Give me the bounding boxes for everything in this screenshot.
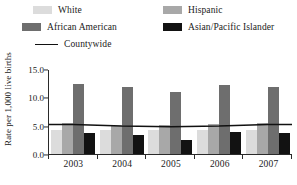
bar-asian-pacific-islander-2005 xyxy=(181,140,192,154)
bar-group-2004 xyxy=(98,70,147,154)
bar-group-2007 xyxy=(243,70,292,154)
y-axis-tick-labels: 15.0 10.0 5.0 0.0 xyxy=(14,56,44,185)
bar-asian-pacific-islander-2006 xyxy=(230,132,241,154)
bar-hispanic-2003 xyxy=(62,123,73,154)
legend-label-hispanic: Hispanic xyxy=(188,5,223,15)
bar-group-2003 xyxy=(49,70,98,154)
y-axis-title: Rate per 1,000 live births xyxy=(3,47,13,151)
bar-white-2007 xyxy=(246,130,257,154)
x-tick-label-2006: 2006 xyxy=(195,159,244,169)
bar-hispanic-2007 xyxy=(257,123,268,154)
bar-white-2004 xyxy=(100,130,111,154)
bar-african-american-2007 xyxy=(268,87,279,154)
legend-label-countywide: Countywide xyxy=(64,39,111,49)
bar-hispanic-2005 xyxy=(159,125,170,154)
bar-white-2003 xyxy=(51,130,62,154)
x-tick-label-2005: 2005 xyxy=(147,159,196,169)
legend-item-countywide: Countywide xyxy=(35,39,111,49)
x-tick-label-2004: 2004 xyxy=(98,159,147,169)
y-tick-label-15: 15.0 xyxy=(18,65,44,75)
y-tick-label-10: 10.0 xyxy=(18,93,44,103)
chart-axes xyxy=(48,70,292,155)
legend-item-hispanic: Hispanic xyxy=(163,5,223,15)
bar-african-american-2003 xyxy=(73,84,84,154)
legend-label-asian-pacific-islander: Asian/Pacific Islander xyxy=(188,22,274,32)
bar-white-2005 xyxy=(148,130,159,154)
bar-asian-pacific-islander-2007 xyxy=(279,133,290,154)
bar-african-american-2005 xyxy=(170,92,181,154)
chart-legend: White Hispanic African American Asian/Pa… xyxy=(0,0,297,58)
y-tick-label-5: 5.0 xyxy=(18,122,44,132)
legend-label-african-american: African American xyxy=(47,22,117,32)
y-tick-mark-5 xyxy=(44,126,48,127)
bar-group-2006 xyxy=(195,70,244,154)
bar-asian-pacific-islander-2003 xyxy=(84,133,95,154)
legend-swatch-asian-pacific-islander-icon xyxy=(163,23,182,31)
legend-item-african-american: African American xyxy=(22,22,117,32)
legend-swatch-hispanic-icon xyxy=(163,6,182,14)
bar-white-2006 xyxy=(197,130,208,154)
y-tick-mark-10 xyxy=(44,98,48,99)
x-axis-line xyxy=(48,154,292,155)
plot-area: Rate per 1,000 live births 15.0 10.0 5.0… xyxy=(0,56,297,185)
legend-swatch-african-american-icon xyxy=(22,23,41,31)
legend-item-white: White xyxy=(33,5,82,15)
bar-group-2005 xyxy=(146,70,195,154)
bar-asian-pacific-islander-2004 xyxy=(133,135,144,154)
legend-label-white: White xyxy=(58,5,82,15)
x-tick-label-2003: 2003 xyxy=(49,159,98,169)
bar-african-american-2004 xyxy=(122,87,133,154)
x-tick-label-2007: 2007 xyxy=(244,159,293,169)
bar-hispanic-2006 xyxy=(208,124,219,154)
legend-swatch-countywide-line-icon xyxy=(35,40,58,48)
bar-african-american-2006 xyxy=(219,85,230,154)
legend-item-asian-pacific-islander: Asian/Pacific Islander xyxy=(163,22,274,32)
y-tick-mark-15 xyxy=(44,69,48,70)
bar-groups xyxy=(49,70,292,154)
legend-swatch-white-icon xyxy=(33,6,52,14)
bar-hispanic-2004 xyxy=(111,126,122,154)
chart-figure: White Hispanic African American Asian/Pa… xyxy=(0,0,297,185)
y-tick-label-0: 0.0 xyxy=(18,150,44,160)
x-axis-tick-labels: 2003 2004 2005 2006 2007 xyxy=(49,159,293,169)
